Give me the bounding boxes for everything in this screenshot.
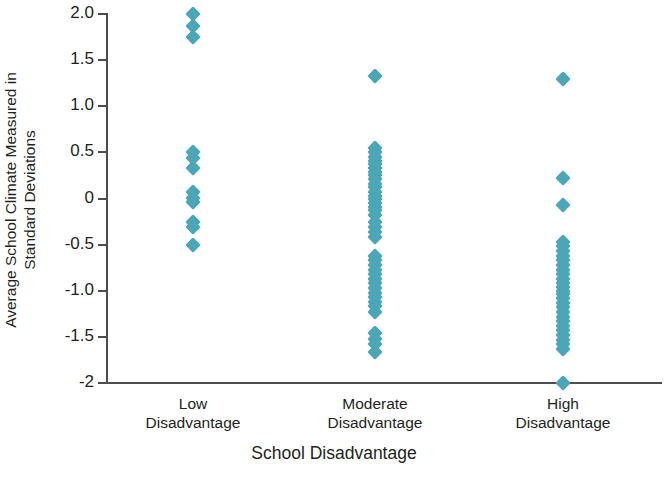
y-axis-tick [98,382,106,384]
y-axis-tick [98,13,106,15]
y-axis-tick-label: 1.0 [40,95,94,115]
data-point [185,237,201,253]
x-axis-title: School Disadvantage [0,443,668,464]
category-label-line1: Low [93,394,293,413]
data-point [367,68,383,84]
y-axis-tick [98,151,106,153]
y-axis-tick-label: -2 [40,372,94,392]
x-axis-category-label: HighDisadvantage [463,394,663,432]
y-axis-tick-label: -1.0 [40,280,94,300]
y-axis-tick-label: 0 [40,188,94,208]
category-label-line2: Disadvantage [275,413,475,432]
category-label-line1: Moderate [275,394,475,413]
y-axis-tick [98,290,106,292]
y-axis-title-line1: Average School Climate Measured in [1,72,20,328]
y-axis-title: Average School Climate Measured in Stand… [0,0,40,400]
data-point [555,71,571,87]
y-axis-line [106,13,108,384]
y-axis-tick-label: -1.5 [40,326,94,346]
y-axis-tick [98,198,106,200]
data-point [185,29,201,45]
y-axis-tick-label: 1.5 [40,49,94,69]
y-axis-tick-label: 0.5 [40,141,94,161]
y-axis-tick [98,105,106,107]
data-point [185,160,201,176]
data-point [555,170,571,186]
scatter-plot-figure: Average School Climate Measured in Stand… [0,0,668,477]
category-label-line2: Disadvantage [93,413,293,432]
x-axis-category-label: LowDisadvantage [93,394,293,432]
y-axis-tick-label: -0.5 [40,234,94,254]
y-axis-tick [98,59,106,61]
x-axis-category-label: ModerateDisadvantage [275,394,475,432]
y-axis-tick-label: 2.0 [40,3,94,23]
y-axis-tick [98,244,106,246]
y-axis-title-line2: Standard Deviations [20,72,39,328]
y-axis-tick [98,336,106,338]
category-label-line1: High [463,394,663,413]
x-axis-line [106,382,662,384]
category-label-line2: Disadvantage [463,413,663,432]
data-point [555,375,571,391]
data-point [555,197,571,213]
